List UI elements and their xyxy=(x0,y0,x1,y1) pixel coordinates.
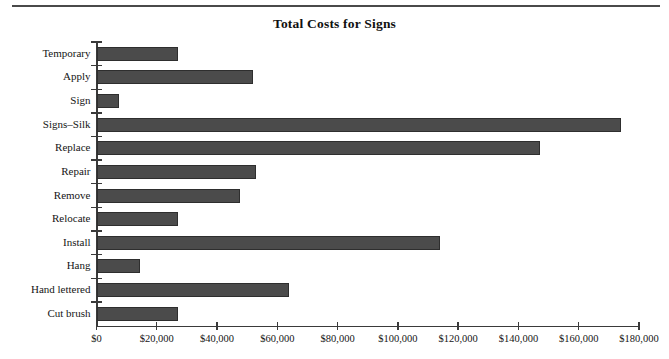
x-axis-tick-label: $80,000 xyxy=(321,333,355,344)
y-axis-category-label: Remove xyxy=(3,190,91,201)
bar xyxy=(97,212,178,226)
bar xyxy=(97,118,621,132)
x-axis-tick xyxy=(156,322,157,330)
bar xyxy=(97,307,178,321)
x-axis-line xyxy=(96,326,639,328)
x-axis-tick xyxy=(638,322,639,330)
bar xyxy=(97,70,254,84)
bar xyxy=(97,47,178,61)
y-axis-tick xyxy=(91,159,102,160)
x-axis-tick xyxy=(518,322,519,330)
y-axis-tick xyxy=(91,183,102,184)
y-axis-tick xyxy=(91,230,102,231)
x-axis-tick-label: $40,000 xyxy=(200,333,234,344)
x-axis-tick-label: $140,000 xyxy=(499,333,538,344)
bar xyxy=(97,94,120,108)
y-axis-tick xyxy=(91,89,102,90)
x-axis-tick xyxy=(397,322,398,330)
x-axis-tick-label: $20,000 xyxy=(140,333,174,344)
y-axis-category-label: Temporary xyxy=(3,48,91,59)
bar xyxy=(97,236,441,250)
x-axis-tick xyxy=(96,322,97,330)
x-axis-tick xyxy=(457,322,458,330)
chart-figure: Total Costs for Signs $0$20,000$40,000$6… xyxy=(0,0,669,359)
x-axis-tick xyxy=(216,322,217,330)
x-axis-tick-label: $0 xyxy=(91,333,102,344)
y-axis-tick xyxy=(91,301,102,302)
x-axis-tick-label: $120,000 xyxy=(438,333,477,344)
x-axis-tick xyxy=(337,322,338,330)
y-axis-category-label: Sign xyxy=(3,95,91,106)
y-axis-category-label: Replace xyxy=(3,142,91,153)
y-axis-category-label: Repair xyxy=(3,166,91,177)
bar xyxy=(97,165,257,179)
y-axis-category-label: Relocate xyxy=(3,213,91,224)
y-axis-category-label: Cut brush xyxy=(3,308,91,319)
bar xyxy=(97,283,290,297)
y-axis-tick xyxy=(91,254,102,255)
bar xyxy=(97,259,141,273)
bar xyxy=(97,189,240,203)
y-axis-tick xyxy=(91,207,102,208)
y-axis-category-label: Hang xyxy=(3,260,91,271)
y-axis-tick xyxy=(91,112,102,113)
x-axis-tick xyxy=(277,322,278,330)
x-axis-tick-label: $160,000 xyxy=(559,333,598,344)
plot-area: $0$20,000$40,000$60,000$80,000$100,000$1… xyxy=(0,0,669,359)
y-axis-category-label: Apply xyxy=(3,71,91,82)
y-axis-tick xyxy=(91,41,102,42)
x-axis-tick-label: $100,000 xyxy=(378,333,417,344)
x-axis-tick xyxy=(578,322,579,330)
y-axis-category-label: Hand lettered xyxy=(3,284,91,295)
bar xyxy=(97,141,540,155)
x-axis-tick-label: $180,000 xyxy=(619,333,658,344)
x-axis-tick-label: $60,000 xyxy=(260,333,294,344)
y-axis-tick xyxy=(91,278,102,279)
y-axis-category-label: Signs–Silk xyxy=(3,119,91,130)
y-axis-category-label: Install xyxy=(3,237,91,248)
y-axis-tick xyxy=(91,65,102,66)
y-axis-tick xyxy=(91,136,102,137)
